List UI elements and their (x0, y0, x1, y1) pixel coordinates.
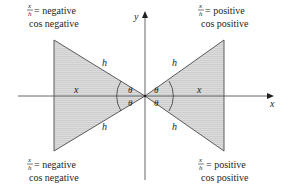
fraction-numerator: x (27, 2, 32, 10)
cosine-sign-diagram: y x h h x θ θ h h x θ θ x h = negative c… (0, 0, 290, 192)
cos-sign-text: cos positive (201, 172, 249, 183)
cos-sign-text: cos negative (29, 172, 79, 183)
quadrant-label-bottom-left: x h = negative cos negative (27, 156, 79, 183)
left-top-angle-label: θ (128, 85, 133, 95)
fraction-numerator: x (198, 2, 203, 10)
fraction-numerator: x (27, 156, 32, 164)
quadrant-label-top-right: x h = positive cos positive (198, 2, 249, 29)
cos-sign-text: cos positive (201, 18, 249, 29)
quadrant-label-top-left: x h = negative cos negative (27, 2, 79, 29)
left-triangle (54, 40, 145, 151)
fraction-denominator: h (28, 164, 32, 172)
right-triangle (145, 40, 224, 151)
origin-point (144, 95, 147, 98)
quadrant-label-bottom-right: x h = positive cos positive (198, 156, 249, 183)
cos-sign-text: cos negative (29, 18, 79, 29)
right-top-hypotenuse-label: h (172, 57, 177, 68)
right-bottom-angle-label: θ (154, 98, 159, 108)
left-bottom-angle-label: θ (128, 98, 133, 108)
left-bottom-hypotenuse-label: h (102, 121, 107, 132)
right-bottom-hypotenuse-label: h (172, 121, 177, 132)
fraction-denominator: h (28, 10, 32, 18)
x-axis-label: x (269, 98, 275, 109)
ratio-sign-text: = positive (205, 5, 245, 16)
fraction-denominator: h (199, 10, 203, 18)
left-adjacent-label: x (73, 84, 79, 95)
right-adjacent-label: x (196, 84, 202, 95)
ratio-sign-text: = positive (206, 159, 246, 170)
y-axis-arrow-icon (142, 11, 148, 18)
fraction-numerator: x (198, 156, 203, 164)
fraction-denominator: h (199, 164, 203, 172)
right-top-angle-label: θ (154, 85, 159, 95)
y-axis-label: y (133, 11, 139, 22)
ratio-sign-text: = negative (34, 159, 77, 170)
ratio-sign-text: = negative (34, 5, 77, 16)
left-top-hypotenuse-label: h (102, 57, 107, 68)
